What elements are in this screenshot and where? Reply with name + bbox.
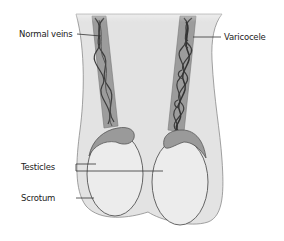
top-fade [70,0,230,22]
right-testicle [152,139,208,225]
label-normal-veins: Normal veins [19,29,73,39]
label-scrotum: Scrotum [21,193,55,203]
label-varicocele: Varicocele [224,32,266,42]
label-testicles: Testicles [21,162,55,172]
